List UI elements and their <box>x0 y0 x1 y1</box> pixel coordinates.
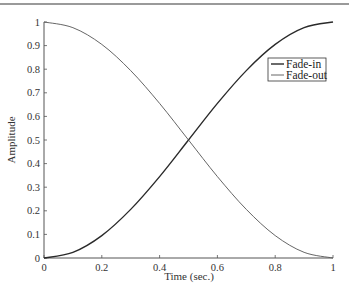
legend-label-fade-out: Fade-out <box>286 69 328 81</box>
x-axis-label: Time (sec.) <box>164 270 214 283</box>
y-tick-label: 0 <box>35 253 40 264</box>
crossfade-chart: 00.20.40.60.8100.10.20.30.40.50.60.70.80… <box>0 0 349 297</box>
y-tick-label: 0.5 <box>27 135 40 146</box>
y-tick-label: 0.1 <box>27 229 40 240</box>
y-tick-label: 0.4 <box>27 158 41 169</box>
y-tick-label: 0.7 <box>27 87 40 98</box>
legend: Fade-in Fade-out <box>268 58 328 81</box>
x-tick-label: 1 <box>330 262 335 273</box>
y-tick-label: 1 <box>35 17 40 28</box>
y-tick-label: 0.6 <box>27 111 40 122</box>
axes: 00.20.40.60.8100.10.20.30.40.50.60.70.80… <box>27 17 336 274</box>
x-tick-label: 0.2 <box>95 262 108 273</box>
y-tick-label: 0.9 <box>27 40 40 51</box>
y-tick-label: 0.2 <box>27 205 40 216</box>
x-tick-label: 0.8 <box>269 262 282 273</box>
y-tick-label: 0.3 <box>27 182 40 193</box>
y-axis-label: Amplitude <box>5 116 17 163</box>
y-tick-label: 0.8 <box>27 64 40 75</box>
x-tick-label: 0 <box>41 262 46 273</box>
